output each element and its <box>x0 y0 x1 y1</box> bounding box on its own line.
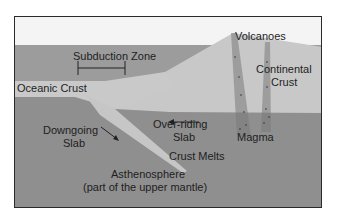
label-overriding-slab-line1: Over-riding <box>153 118 207 130</box>
label-crust-melts: Crust Melts <box>169 150 225 162</box>
label-oceanic-crust: Oceanic Crust <box>17 82 87 94</box>
label-asthenosphere-line2: (part of the upper mantle) <box>83 181 207 193</box>
label-downgoing-slab-line2: Slab <box>63 137 85 149</box>
label-continental-crust-line1: Continental <box>256 63 312 75</box>
label-continental-crust-line2: Crust <box>271 76 297 88</box>
subduction-diagram: Subduction Zone Oceanic Crust Volcanoes … <box>14 16 322 208</box>
label-overriding-slab-line2: Slab <box>173 131 195 143</box>
label-asthenosphere-line1: Asthenosphere <box>111 168 185 180</box>
label-downgoing-slab-line1: Downgoing <box>43 124 98 136</box>
label-volcanoes: Volcanoes <box>235 30 286 42</box>
label-magma: Magma <box>237 131 274 143</box>
label-subduction-zone: Subduction Zone <box>73 50 156 62</box>
